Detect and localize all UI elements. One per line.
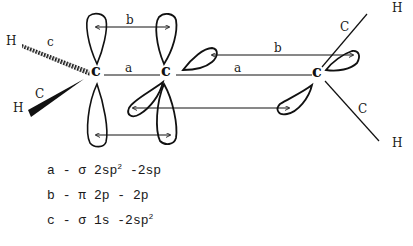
carbon-middle: c	[161, 63, 171, 79]
carbon-right: c	[312, 64, 322, 80]
hydrogen-bottom-right: H	[392, 137, 402, 149]
bond-label-b-right: b	[274, 42, 282, 54]
bond-label-c-bottom-right: C	[358, 103, 367, 115]
bond-label-c-top-right: C	[340, 21, 349, 33]
carbon-left: c	[91, 63, 101, 79]
bond-legend: a - σ 2sp2 -2sp b - π 2p - 2p c - σ 1s -…	[47, 158, 161, 233]
right-p-orbital-upper	[326, 51, 359, 71]
left-p-orbital-top	[87, 14, 107, 64]
hydrogen-top-left: H	[6, 35, 16, 47]
hashed-wedge-bond-top-left	[22, 44, 90, 76]
bond-right-bottom	[325, 81, 379, 141]
bond-label-c-bottom-left: C	[35, 88, 44, 100]
middle-p-orbital-right	[183, 48, 217, 70]
hydrogen-bottom-left: H	[13, 102, 23, 114]
bond-label-c-top-left: c	[47, 36, 54, 48]
bond-label-b-left: b	[126, 14, 134, 26]
right-p-orbital-lower	[278, 85, 312, 114]
bond-label-a-left: a	[125, 62, 132, 74]
legend-row-a: a - σ 2sp2 -2sp	[47, 158, 161, 183]
left-p-orbital-bottom	[88, 84, 107, 147]
legend-row-b: b - π 2p - 2p	[47, 183, 161, 208]
hydrogen-top-right: H	[392, 2, 402, 14]
bond-label-a-right: a	[234, 62, 241, 74]
middle-p-orbital-top	[156, 14, 176, 64]
legend-row-c: c - σ 1s -2sp2	[47, 208, 161, 233]
